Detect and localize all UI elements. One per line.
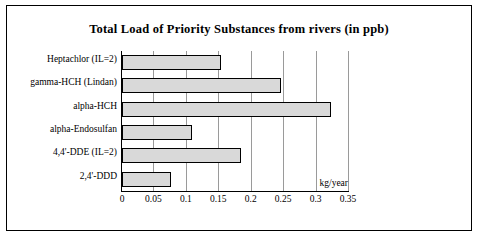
category-label: gamma-HCH (Lindan) xyxy=(30,77,117,87)
bar-row: alpha-HCH xyxy=(122,98,349,121)
bar xyxy=(122,78,281,93)
x-tick-label: 0.25 xyxy=(275,194,292,204)
x-tick-label: 0.2 xyxy=(245,194,257,204)
bar xyxy=(122,102,331,117)
chart-frame: Total Load of Priority Substances from r… xyxy=(6,5,472,231)
bar xyxy=(122,148,241,163)
bar xyxy=(122,172,171,187)
category-label: 4,4'-DDE (IL=2) xyxy=(53,147,117,157)
category-label: alpha-HCH xyxy=(73,101,117,111)
category-label: Heptachlor (IL=2) xyxy=(47,54,117,64)
bar-row: gamma-HCH (Lindan) xyxy=(122,74,349,97)
x-tick-label: 0.35 xyxy=(340,194,357,204)
chart-title: Total Load of Priority Substances from r… xyxy=(7,22,471,37)
x-tick-label: 0 xyxy=(120,194,125,204)
x-tick-label: 0.3 xyxy=(310,194,322,204)
category-label: 2,4'-DDD xyxy=(80,171,117,181)
bar-row: alpha-Endosulfan xyxy=(122,121,349,144)
plot-area: Heptachlor (IL=2) gamma-HCH (Lindan) alp… xyxy=(121,51,349,192)
x-axis-label: kg/year xyxy=(320,178,349,188)
x-tick-label: 0.1 xyxy=(180,194,192,204)
x-tick-label: 0.05 xyxy=(145,194,162,204)
bar-row: Heptachlor (IL=2) xyxy=(122,51,349,74)
category-label: alpha-Endosulfan xyxy=(50,124,117,134)
bar xyxy=(122,55,221,70)
bar xyxy=(122,125,192,140)
bar-row: 4,4'-DDE (IL=2) xyxy=(122,144,349,167)
x-tick-label: 0.15 xyxy=(210,194,227,204)
bar-row: 2,4'-DDD xyxy=(122,168,349,191)
